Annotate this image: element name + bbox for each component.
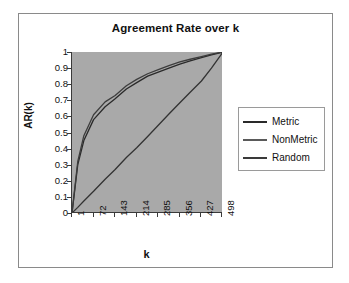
x-tick-label: 214: [140, 200, 151, 216]
series-line-metric: [72, 52, 222, 213]
y-tick-label: 0: [42, 208, 68, 217]
x-tick-label: 427: [204, 200, 215, 216]
y-tick-label: 0.8: [42, 79, 68, 88]
x-tick-label: 1: [75, 211, 86, 216]
y-axis-label: AR(k): [23, 86, 34, 146]
legend-line-icon: [243, 157, 267, 159]
legend-line-icon: [243, 139, 267, 141]
x-axis-label: k: [71, 248, 222, 260]
chart-legend: MetricNonMetricRandom: [238, 107, 325, 171]
plot-area: [71, 52, 222, 213]
y-tick-label: 0.9: [42, 63, 68, 72]
y-tick-label: 0.7: [42, 95, 68, 104]
x-tick-label-group: 172143214285356427498: [71, 215, 222, 251]
legend-label: Metric: [272, 117, 299, 127]
chart-title: Agreement Rate over k: [18, 22, 333, 34]
y-tick-label-group: 00.10.20.30.40.50.60.70.80.91: [40, 52, 68, 213]
y-tick-label: 0.6: [42, 111, 68, 120]
x-tick-label: 498: [225, 200, 236, 216]
y-tick-label: 0.1: [42, 192, 68, 201]
y-tick-label: 0.5: [42, 128, 68, 137]
chart-figure: Agreement Rate over k AR(k) 00.10.20.30.…: [0, 0, 349, 283]
legend-item[interactable]: NonMetric: [243, 131, 320, 149]
y-tick-label: 0.4: [42, 144, 68, 153]
x-tick-label: 143: [118, 200, 129, 216]
legend-label: NonMetric: [272, 135, 318, 145]
legend-label: Random: [272, 153, 310, 163]
y-tick-label: 1: [42, 47, 68, 56]
x-tick-label: 72: [97, 205, 108, 216]
legend-item[interactable]: Metric: [243, 113, 320, 131]
y-tick-label: 0.2: [42, 176, 68, 185]
x-tick-label: 285: [161, 200, 172, 216]
legend-line-icon: [243, 121, 267, 123]
x-tick-label: 356: [183, 200, 194, 216]
y-tick-label: 0.3: [42, 160, 68, 169]
legend-item[interactable]: Random: [243, 149, 320, 167]
series-canvas: [72, 52, 222, 213]
